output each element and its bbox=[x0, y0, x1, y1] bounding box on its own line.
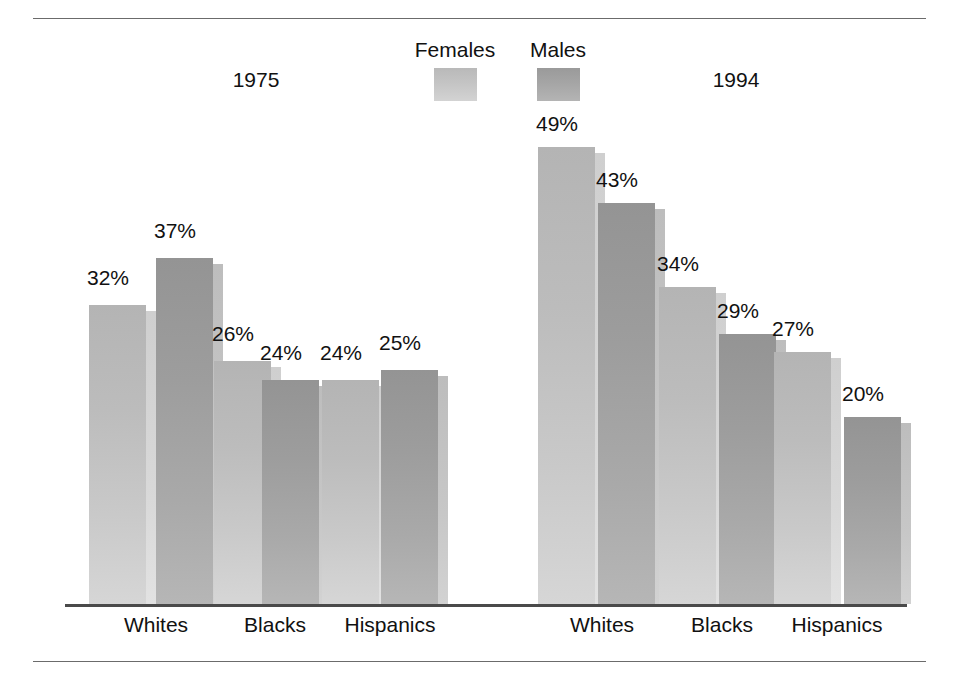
bar-side-shadow bbox=[145, 311, 156, 604]
bar-b1-1975-whites-females bbox=[89, 305, 156, 604]
bar-b6-1975-hispanics-males bbox=[381, 370, 448, 604]
bar-value-b2: 37% bbox=[135, 219, 215, 242]
bar-face bbox=[719, 334, 776, 604]
plot-area: 32% 37% 26% 24% 24% 25% bbox=[0, 0, 959, 679]
bar-face bbox=[538, 147, 595, 604]
bar-b7-1994-whites-females bbox=[538, 147, 605, 604]
bar-value-b1: 32% bbox=[68, 266, 148, 289]
bar-face bbox=[156, 258, 213, 604]
bar-value-b8: 43% bbox=[577, 168, 657, 191]
bar-value-b7: 49% bbox=[517, 112, 597, 135]
category-label-1994-hispanics: Hispanics bbox=[772, 612, 902, 637]
bar-face bbox=[262, 380, 319, 604]
bar-value-b6: 25% bbox=[360, 331, 440, 354]
bar-b4-1975-blacks-males bbox=[262, 380, 329, 604]
bar-b2-1975-whites-males bbox=[156, 258, 223, 604]
bar-face bbox=[659, 287, 716, 604]
category-label-1975-whites: Whites bbox=[96, 612, 216, 637]
bar-face bbox=[89, 305, 146, 604]
bar-side-shadow bbox=[900, 423, 911, 604]
bar-side-shadow bbox=[437, 376, 448, 604]
bar-b12-1994-hispanics-males bbox=[844, 417, 911, 604]
category-label-1994-blacks: Blacks bbox=[662, 612, 782, 637]
baseline-axis bbox=[65, 604, 907, 607]
category-label-1975-blacks: Blacks bbox=[215, 612, 335, 637]
bar-face bbox=[322, 380, 379, 604]
category-label-1975-hispanics: Hispanics bbox=[325, 612, 455, 637]
bar-value-b9: 34% bbox=[638, 252, 718, 275]
bar-b9-1994-blacks-females bbox=[659, 287, 726, 604]
category-label-1994-whites: Whites bbox=[542, 612, 662, 637]
bar-face bbox=[381, 370, 438, 604]
chart-page: Females Males 1975 1994 32% 37% 26% bbox=[0, 0, 959, 679]
bar-value-b11: 27% bbox=[753, 317, 833, 340]
bar-face bbox=[844, 417, 901, 604]
bar-value-b12: 20% bbox=[823, 382, 903, 405]
bar-b5-1975-hispanics-females bbox=[322, 380, 389, 604]
